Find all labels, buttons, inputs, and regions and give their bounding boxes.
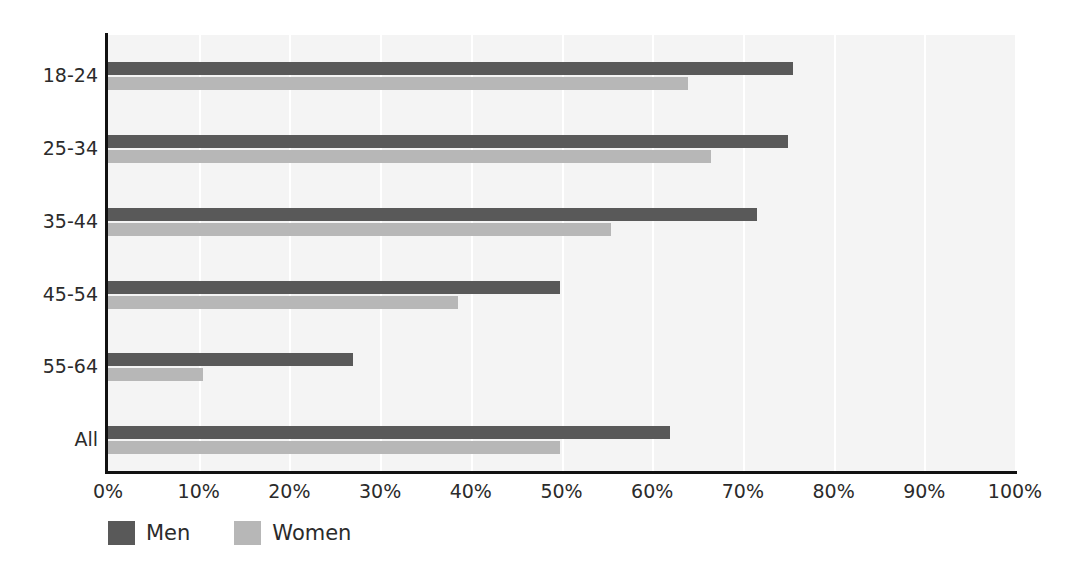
bar-group-18-24 — [108, 62, 1015, 90]
legend-label-women: Women — [272, 521, 351, 545]
y-tick-label-35-44: 35-44 — [2, 212, 98, 231]
x-tick-label-30%: 30% — [359, 480, 401, 502]
bar-group-35-44 — [108, 208, 1015, 236]
legend-item-women[interactable]: Women — [234, 521, 351, 545]
bar-group-55-64 — [108, 353, 1015, 381]
x-axis-tick-labels: 0%10%20%30%40%50%60%70%80%90%100% — [108, 480, 1015, 508]
gridline-80% — [834, 35, 836, 472]
x-tick-label-40%: 40% — [450, 480, 492, 502]
gridline-30% — [380, 35, 382, 472]
bar-women-25-34 — [108, 150, 711, 163]
x-tick-label-100%: 100% — [988, 480, 1042, 502]
y-tick-label-45-54: 45-54 — [2, 285, 98, 304]
bar-women-55-64 — [108, 368, 203, 381]
plot-area — [108, 35, 1015, 472]
bar-women-35-44 — [108, 223, 611, 236]
y-axis-line — [105, 33, 108, 474]
legend-label-men: Men — [146, 521, 190, 545]
x-tick-label-90%: 90% — [903, 480, 945, 502]
bar-group-25-34 — [108, 135, 1015, 163]
x-axis-line — [105, 471, 1017, 474]
bar-men-All — [108, 426, 670, 439]
gridline-60% — [652, 35, 654, 472]
gridline-10% — [199, 35, 201, 472]
bar-men-25-34 — [108, 135, 788, 148]
gridline-40% — [471, 35, 473, 472]
gridline-20% — [289, 35, 291, 472]
y-tick-label-25-34: 25-34 — [2, 139, 98, 158]
bar-women-18-24 — [108, 77, 688, 90]
chart-legend: MenWomen — [108, 521, 351, 545]
y-tick-label-All: All — [2, 430, 98, 449]
x-tick-label-20%: 20% — [268, 480, 310, 502]
bar-men-18-24 — [108, 62, 793, 75]
bar-men-45-54 — [108, 281, 560, 294]
bar-women-45-54 — [108, 296, 458, 309]
legend-swatch-men — [108, 521, 135, 545]
y-tick-label-55-64: 55-64 — [2, 357, 98, 376]
bar-men-55-64 — [108, 353, 353, 366]
y-tick-label-18-24: 18-24 — [2, 66, 98, 85]
bar-women-All — [108, 441, 560, 454]
x-tick-label-0%: 0% — [93, 480, 123, 502]
bar-men-35-44 — [108, 208, 757, 221]
x-tick-label-70%: 70% — [722, 480, 764, 502]
bar-group-45-54 — [108, 281, 1015, 309]
x-tick-label-50%: 50% — [540, 480, 582, 502]
y-axis-tick-labels: 18-2425-3435-4445-5455-64All — [0, 35, 98, 472]
bar-group-All — [108, 426, 1015, 454]
gridline-50% — [562, 35, 564, 472]
legend-item-men[interactable]: Men — [108, 521, 190, 545]
x-tick-label-10%: 10% — [178, 480, 220, 502]
gridline-70% — [743, 35, 745, 472]
grouped-bar-chart: 18-2425-3435-4445-5455-64All 0%10%20%30%… — [0, 0, 1070, 564]
x-tick-label-80%: 80% — [812, 480, 854, 502]
x-tick-label-60%: 60% — [631, 480, 673, 502]
gridline-100% — [1015, 35, 1017, 472]
gridline-90% — [924, 35, 926, 472]
legend-swatch-women — [234, 521, 261, 545]
